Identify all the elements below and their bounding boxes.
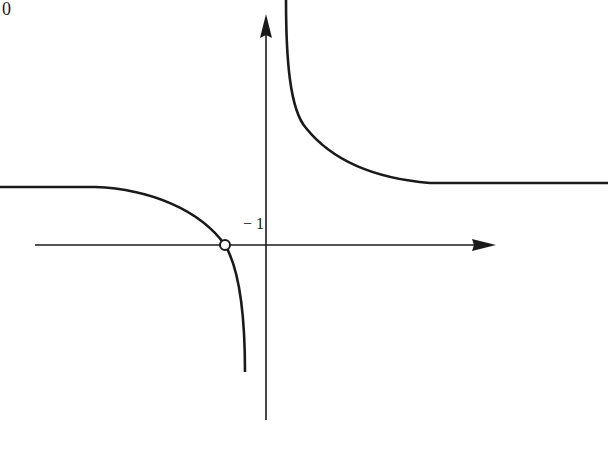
y-axis-arrow-icon <box>260 14 272 38</box>
curve-lower-left-branch <box>0 187 245 372</box>
function-graph <box>0 0 608 453</box>
x-axis-arrow-icon <box>472 239 496 251</box>
corner-label: 0 <box>2 0 11 18</box>
curve-upper-right-branch <box>286 0 608 183</box>
open-point-marker <box>220 240 230 250</box>
point-label-minus-one: − 1 <box>243 215 264 233</box>
